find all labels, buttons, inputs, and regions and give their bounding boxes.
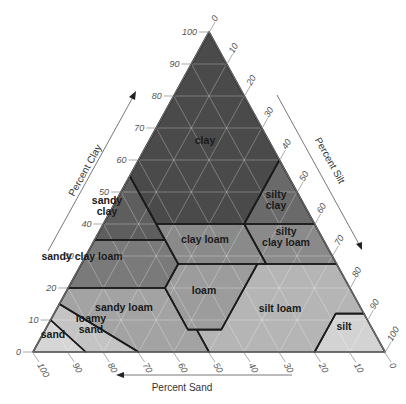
sand-tick-label: 90 [70,361,84,375]
clay-tick-label: 80 [152,91,162,101]
silt-tick-label: 40 [279,137,293,151]
clay-tick-label: 20 [45,283,56,293]
sand-tick-label: 50 [211,361,225,375]
sand-tick-label: 70 [141,361,155,375]
sand-tick-label: 100 [35,361,51,379]
soil-texture-triangle: 0102030405060708090100010203040506070809… [0,0,406,404]
silt-tick-label: 50 [297,169,311,183]
clay-tick-label: 100 [182,27,197,37]
sand-tick-label: 30 [282,361,296,375]
silt-axis-title: Percent Silt [313,135,348,185]
clay-tick-label: 10 [29,315,39,325]
sand-tick-label: 40 [246,361,260,375]
region-label-silty-clay-loam: clay loam [262,236,310,248]
silt-tick-label: 0 [209,14,220,23]
region-label-silt-loam: silt loam [259,302,302,314]
region-label-silty-clay-loam: silty [275,225,296,237]
sand-axis-arrow: Percent Sand [116,372,292,393]
sand-tick-label: 10 [352,361,366,375]
silt-tick-label: 20 [244,73,258,88]
region-label-sand: sand [41,328,66,340]
region-label-clay-loam: clay loam [181,233,229,245]
region-label-silty-clay: silty [265,188,286,200]
region-label-sandy-clay-loam: sandy clay loam [41,250,122,262]
clay-tick-label: 90 [169,59,179,69]
region-label-clay: clay [195,134,216,146]
region-label-loamy-sand: sand [79,323,104,335]
sand-tick-label: 20 [316,360,330,375]
region-label-loam: loam [192,284,217,296]
sand-tick-label: 80 [106,361,120,375]
region-sandy-clay-loam [68,240,178,288]
clay-tick-label: 60 [117,155,127,165]
silt-tick-label: 30 [262,105,276,119]
region-label-loamy-sand: loamy [76,312,107,324]
clay-tick-label: 40 [81,219,91,229]
silt-tick-label: 10 [227,41,241,55]
silt-tick-label: 60 [315,201,329,215]
silt-tick-label: 100 [385,325,401,343]
sand-tick-label: 60 [176,361,190,375]
region-label-silty-clay: clay [266,199,287,211]
region-label-silt: silt [336,320,352,332]
region-label-sandy-clay: clay [97,205,118,217]
clay-tick-label: 0 [16,347,21,357]
region-label-sandy-loam: sandy loam [95,301,153,313]
triangle-diagram: 0102030405060708090100010203040506070809… [0,0,406,404]
clay-tick-label: 70 [134,123,144,133]
silt-tick-label: 70 [332,233,346,247]
sand-tick-label: 0 [387,361,398,370]
region-label-sandy-clay: sandy [92,194,123,206]
sand-axis-title: Percent Sand [152,382,213,393]
silt-tick-label: 90 [367,297,381,311]
silt-tick-label: 80 [350,265,364,279]
